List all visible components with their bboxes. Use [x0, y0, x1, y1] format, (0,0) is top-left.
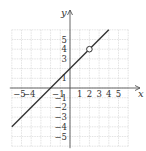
graph: −5−4−1123455431−1−2−3−4−5 x y: [0, 0, 146, 151]
y-tick-label: −5: [54, 132, 67, 142]
x-tick-label: 2: [87, 89, 92, 99]
x-tick-label: 5: [116, 89, 121, 99]
x-tick-label: 1: [77, 89, 82, 99]
open-circle-icon: [87, 46, 93, 52]
y-tick-label: −1: [54, 93, 67, 103]
x-axis-label: x: [138, 88, 144, 99]
y-tick-label: 5: [62, 35, 67, 45]
y-tick-label: −3: [54, 112, 67, 122]
y-tick-label: 4: [62, 44, 67, 54]
y-tick-label: −4: [54, 122, 67, 132]
x-tick-label: 4: [106, 89, 111, 99]
y-tick-label: −2: [54, 102, 67, 112]
x-tick-label: −4: [23, 89, 36, 99]
axes: [10, 10, 140, 148]
y-tick-label: 3: [62, 54, 67, 64]
y-axis-label: y: [60, 7, 67, 18]
x-tick-label: 3: [96, 89, 101, 99]
